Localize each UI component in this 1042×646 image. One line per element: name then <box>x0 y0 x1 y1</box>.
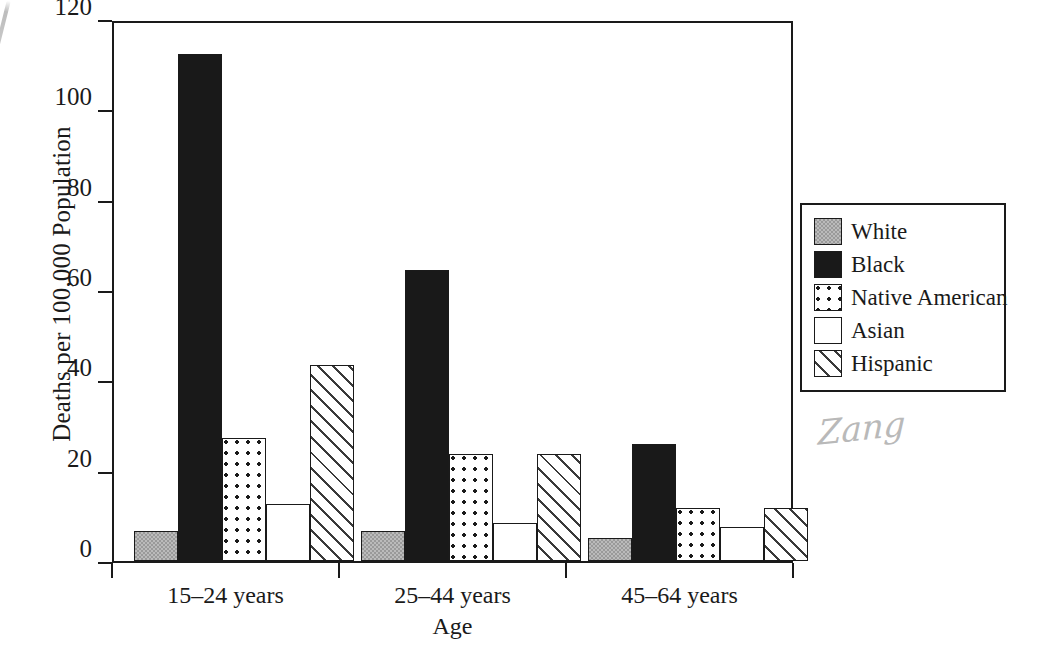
bar-chart-figure: Deaths per 100,000 Population 0204060801… <box>0 0 1042 646</box>
x-axis-tick <box>338 563 340 578</box>
y-axis-tick-label: 40 <box>14 355 92 380</box>
legend-item-label: White <box>851 220 907 243</box>
x-axis-tick <box>792 563 794 578</box>
x-axis-tick-label: 45–64 years <box>566 582 793 609</box>
y-axis-tick <box>98 562 112 564</box>
x-axis-title: Age <box>0 613 905 640</box>
legend-swatch-icon <box>814 251 842 278</box>
bar-asian[interactable] <box>720 527 764 561</box>
y-axis-tick-label: 120 <box>14 0 92 19</box>
legend-swatch-icon <box>814 317 842 344</box>
y-axis-tick <box>98 20 112 22</box>
legend-item-white[interactable]: White <box>814 215 994 248</box>
y-axis-tick <box>98 201 112 203</box>
handwritten-signature: Zang <box>818 403 906 453</box>
y-axis-tick-label: 60 <box>14 265 92 290</box>
legend-item-native-american[interactable]: Native American <box>814 281 994 314</box>
bar-black[interactable] <box>632 444 676 561</box>
legend-item-label: Black <box>851 253 905 276</box>
legend-swatch-icon <box>814 284 842 311</box>
y-axis-tick-label: 20 <box>14 446 92 471</box>
bar-hispanic[interactable] <box>764 508 808 561</box>
handwritten-stroke-mark <box>0 0 11 55</box>
legend-item-hispanic[interactable]: Hispanic <box>814 347 994 380</box>
legend-swatch-icon <box>814 218 842 245</box>
x-axis-tick <box>111 563 113 578</box>
y-axis-tick <box>98 110 112 112</box>
x-axis-tick-label: 15–24 years <box>112 582 339 609</box>
y-axis-tick <box>98 291 112 293</box>
plot-area <box>112 21 793 563</box>
legend-item-label: Asian <box>851 319 905 342</box>
bar-group <box>114 23 791 561</box>
y-axis-tick <box>98 381 112 383</box>
legend-swatch-icon <box>814 350 842 377</box>
legend-item-black[interactable]: Black <box>814 248 994 281</box>
legend-item-asian[interactable]: Asian <box>814 314 994 347</box>
x-axis-tick-label: 25–44 years <box>339 582 566 609</box>
legend: WhiteBlackNative AmericanAsianHispanic <box>800 203 1006 392</box>
y-axis-tick-label: 0 <box>14 536 92 561</box>
bar-native-american[interactable] <box>676 508 720 561</box>
y-axis-tick <box>98 472 112 474</box>
x-axis-tick <box>565 563 567 578</box>
legend-item-label: Native American <box>851 286 1007 309</box>
y-axis-tick-label: 100 <box>14 84 92 109</box>
bar-white[interactable] <box>588 538 632 561</box>
legend-item-label: Hispanic <box>851 352 933 375</box>
y-axis-tick-label: 80 <box>14 175 92 200</box>
